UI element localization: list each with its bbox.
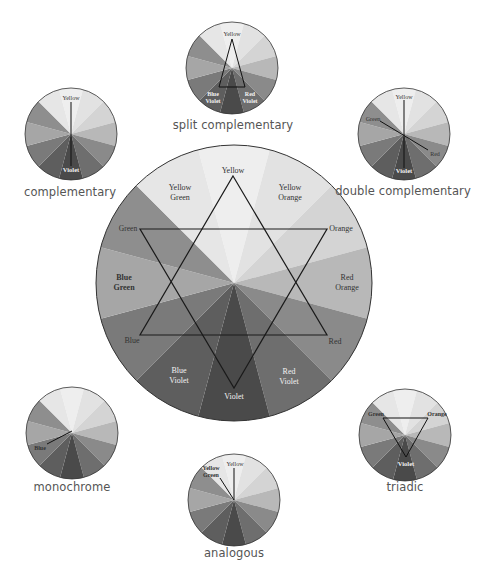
scheme-title-analogous: analogous <box>204 546 264 560</box>
label-blue-violet-line1: Blue <box>171 366 187 375</box>
label-red-orange-line2: Orange <box>335 283 359 292</box>
label-violet: Violet <box>224 392 244 401</box>
label-yellow: Yellow <box>226 461 244 467</box>
label-red: Red <box>329 337 342 346</box>
scheme-title-complementary: complementary <box>24 185 116 199</box>
triadic-wheel: Green Orange Violet <box>359 389 451 481</box>
label-blue-violet-line2: Violet <box>205 98 220 104</box>
monochrome-wheel: Blue <box>26 387 118 479</box>
label-red-orange-line1: Red <box>341 273 354 282</box>
label-blue-green-line2: Green <box>113 283 135 292</box>
label-red-violet-line1: Red <box>283 367 296 376</box>
label-yellow-green-line2: Green <box>203 472 220 478</box>
label-violet: Violet <box>396 167 413 174</box>
label-green: Green <box>119 224 138 233</box>
label-yellow: Yellow <box>62 95 80 101</box>
label-orange: Orange <box>427 411 447 417</box>
scheme-title-monochrome: monochrome <box>34 480 111 494</box>
label-blue-violet-line1: Blue <box>207 91 219 97</box>
label-yellow-green-line2: Green <box>170 193 190 202</box>
label-red-violet-line2: Violet <box>279 377 299 386</box>
label-yellow: Yellow <box>222 166 245 175</box>
label-blue-violet-line2: Violet <box>169 376 189 385</box>
label-yellow: Yellow <box>223 31 241 37</box>
scheme-title-double-complementary: double complementary <box>335 184 471 198</box>
label-violet: Violet <box>398 460 415 467</box>
label-red-violet-line1: Red <box>245 91 256 97</box>
label-red-violet-line2: Violet <box>242 98 257 104</box>
scheme-title-split-complementary: split complementary <box>173 118 294 132</box>
main-color-wheel: Yellow Yellow Orange Orange Red Orange R… <box>96 145 372 421</box>
label-blue-green-line1: Blue <box>116 273 132 282</box>
label-blue: Blue <box>34 445 46 451</box>
label-yellow: Yellow <box>395 94 413 100</box>
label-yellow-orange-line1: Yellow <box>279 183 302 192</box>
split-complementary-wheel: Yellow Blue Violet Red Violet <box>186 22 278 114</box>
double-complementary-wheel: Yellow Green Red Violet <box>358 88 450 180</box>
label-red: Red <box>430 151 440 157</box>
label-green: Green <box>368 411 385 417</box>
label-yellow-green-line1: Yellow <box>203 465 221 471</box>
label-yellow-orange-line2: Orange <box>278 193 302 202</box>
complementary-wheel: Yellow Violet <box>25 88 117 180</box>
label-green: Green <box>366 116 381 122</box>
label-orange: Orange <box>329 224 353 233</box>
label-blue: Blue <box>124 336 140 345</box>
scheme-title-triadic: triadic <box>387 480 424 494</box>
analogous-wheel: Yellow Yellow Green <box>188 454 280 546</box>
label-yellow-green-line1: Yellow <box>169 183 192 192</box>
label-violet: Violet <box>63 166 80 173</box>
